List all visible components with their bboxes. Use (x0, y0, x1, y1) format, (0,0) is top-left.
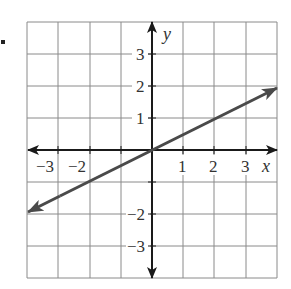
x-tick-label-3: 3 (241, 157, 250, 176)
x-tick-label-neg2: −2 (68, 157, 86, 176)
y-tick-label-neg2: −2 (127, 205, 145, 224)
y-tick-label-neg3: −3 (127, 237, 145, 256)
y-axis-label: y (161, 24, 171, 44)
x-tick-label-neg3: −3 (36, 157, 54, 176)
data-line-y-equals-half-x (60, 88, 277, 196)
coordinate-plane: 3 2 1 −2 −3 −3 −2 1 2 3 x y (0, 0, 291, 289)
y-tick-label-2: 2 (136, 77, 145, 96)
x-axis-label: x (261, 156, 270, 176)
data-line-y-equals-half-x-negative (28, 196, 60, 212)
x-tick-label-1: 1 (178, 157, 187, 176)
y-tick-label-1: 1 (136, 109, 145, 128)
x-tick-label-2: 2 (209, 157, 218, 176)
y-tick-label-3: 3 (136, 45, 145, 64)
problem-bullet (1, 40, 5, 44)
